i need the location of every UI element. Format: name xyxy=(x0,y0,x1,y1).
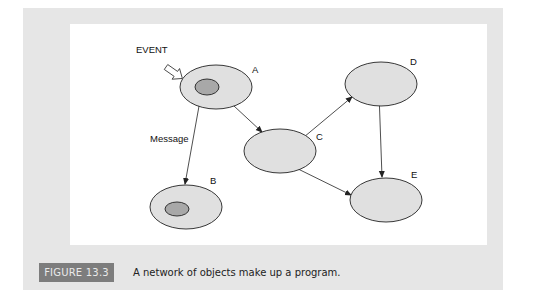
object-network-diagram: ABCDEMessageEVENT xyxy=(70,24,487,245)
node-label-a: A xyxy=(252,64,259,75)
object-core-b xyxy=(165,202,189,216)
node-label-d: D xyxy=(410,56,417,67)
message-label: Message xyxy=(150,133,189,144)
figure-caption: A network of objects make up a program. xyxy=(133,264,341,281)
object-node-e xyxy=(350,178,422,222)
figure-number-badge: FIGURE 13.3 xyxy=(39,263,114,282)
object-node-c xyxy=(244,129,316,173)
diagram-canvas: ABCDEMessageEVENT xyxy=(70,24,487,245)
node-label-e: E xyxy=(411,169,417,180)
arrow-c-to-d xyxy=(298,97,352,142)
node-label-b: B xyxy=(210,175,216,186)
node-label-c: C xyxy=(316,131,323,142)
object-node-d xyxy=(345,62,417,106)
object-core-a xyxy=(195,79,219,95)
event-label: EVENT xyxy=(136,44,168,55)
